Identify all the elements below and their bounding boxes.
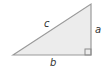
label-hypotenuse-c: c	[44, 18, 50, 29]
label-leg-a: a	[95, 24, 101, 35]
label-leg-b: b	[50, 57, 56, 68]
right-triangle-diagram: c a b	[0, 0, 105, 69]
triangle-shape	[13, 4, 91, 55]
